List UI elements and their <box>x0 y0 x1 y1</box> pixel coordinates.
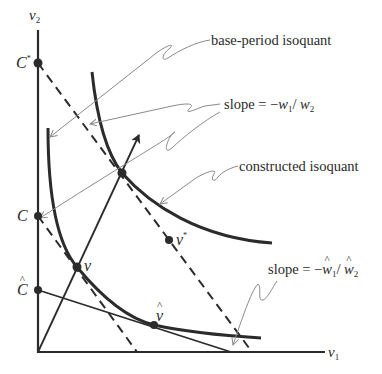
base-period-isoquant-curve <box>48 128 261 338</box>
label-c-hat: C <box>17 282 28 298</box>
isocost-c-dashed <box>38 216 137 352</box>
annotation-slope-w: slope = −w1/ w2 <box>224 97 314 114</box>
point-c-star <box>34 59 43 68</box>
annotation-constructed-isoquant: constructed isoquant <box>239 159 359 174</box>
point-c-hat <box>34 286 42 294</box>
label-v-star: v* <box>176 232 187 248</box>
annotation-base-period-isoquant: base-period isoquant <box>211 33 331 48</box>
ray-from-origin <box>38 135 139 352</box>
leader-slope-w-1 <box>90 104 220 124</box>
annotation-slope-w-hat: slope = −w1/ w2 <box>268 262 358 279</box>
leader-slope-w-2 <box>40 112 220 218</box>
y-axis-label: v2 <box>29 8 40 25</box>
label-c-star: C* <box>16 55 31 71</box>
point-v <box>73 263 82 272</box>
isocost-c-star-dashed <box>38 63 252 352</box>
label-v-hat: v <box>156 308 163 324</box>
point-v-star <box>165 236 173 244</box>
leader-base-period-isoquant <box>50 40 210 137</box>
x-axis-label: v1 <box>328 345 339 362</box>
isoquant-diagram <box>0 0 382 374</box>
point-c <box>34 212 42 220</box>
label-v: v <box>84 258 91 274</box>
point-intersection <box>118 169 127 178</box>
label-c: C <box>17 208 28 224</box>
isocost-c-hat-solid <box>38 290 231 352</box>
leader-constructed-isoquant <box>160 166 238 204</box>
